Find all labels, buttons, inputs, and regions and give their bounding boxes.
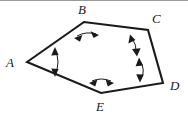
angle-marker-d (136, 58, 144, 83)
angle-marker-b (74, 31, 99, 42)
vertex-label-e: E (96, 100, 104, 113)
angle-marker-e (89, 79, 114, 87)
vertex-label-c: C (152, 12, 161, 25)
angle-marker-c (128, 35, 140, 57)
vertex-label-d: D (170, 79, 179, 92)
vertex-label-a: A (6, 56, 14, 69)
vertex-label-b: B (78, 3, 86, 16)
geometry-figure: A B C D E (0, 0, 188, 123)
